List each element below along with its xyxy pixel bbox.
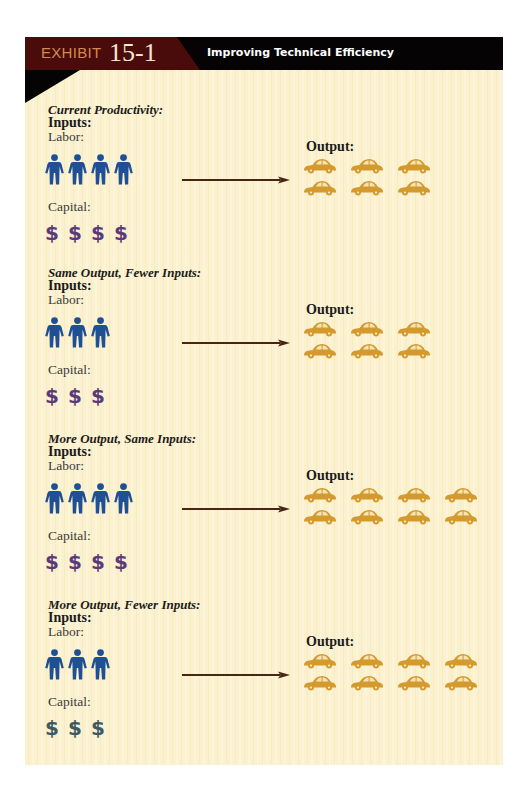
section-current-productivity: Current Productivity: Inputs: Labor: Cap… (25, 102, 503, 262)
output-icons (303, 652, 478, 691)
arrow-right-icon (182, 339, 290, 347)
labor-icons (45, 154, 133, 185)
car-icon (350, 508, 384, 525)
car-icon (397, 674, 431, 691)
person-icon (45, 317, 64, 348)
labor-icons (45, 317, 110, 348)
car-icon (350, 157, 384, 174)
car-icon (303, 508, 337, 525)
output-icons (303, 320, 431, 359)
car-icon (397, 486, 431, 503)
section-same-output-fewer-inputs: Same Output, Fewer Inputs: Inputs: Labor… (25, 265, 503, 425)
car-icon (397, 179, 431, 196)
exhibit-number: 15-1 (109, 38, 157, 68)
arrow-right-icon (182, 505, 290, 513)
dollar-sign-icon: $ (45, 550, 59, 574)
car-icon (303, 157, 337, 174)
car-icon (350, 320, 384, 337)
car-icon (303, 342, 337, 359)
output-label: Output: (306, 634, 354, 650)
dollar-sign-icon: $ (114, 550, 128, 574)
car-icon (444, 652, 478, 669)
capital-label: Capital: (48, 528, 91, 544)
car-icon (350, 486, 384, 503)
capital-icons: $$$$ (45, 221, 128, 245)
person-icon (45, 483, 64, 514)
section-more-output-same-inputs: More Output, Same Inputs: Inputs: Labor:… (25, 431, 503, 591)
arrow-right-icon (182, 176, 290, 184)
person-icon (68, 154, 87, 185)
car-icon (350, 179, 384, 196)
car-icon (303, 179, 337, 196)
car-icon (397, 652, 431, 669)
labor-label: Labor: (48, 624, 84, 640)
car-icon (397, 508, 431, 525)
capital-label: Capital: (48, 362, 91, 378)
person-icon (45, 649, 64, 680)
person-icon (114, 483, 133, 514)
dollar-sign-icon: $ (45, 716, 59, 740)
capital-icons: $$$$ (45, 550, 128, 574)
car-icon (303, 674, 337, 691)
car-icon (397, 342, 431, 359)
dollar-sign-icon: $ (68, 384, 82, 408)
dollar-sign-icon: $ (91, 384, 105, 408)
labor-icons (45, 483, 133, 514)
person-icon (68, 317, 87, 348)
labor-label: Labor: (48, 129, 84, 145)
person-icon (91, 154, 110, 185)
dollar-sign-icon: $ (68, 716, 82, 740)
person-icon (91, 483, 110, 514)
person-icon (114, 154, 133, 185)
dollar-sign-icon: $ (68, 221, 82, 245)
exhibit-page: EXHIBIT 15-1 Improving Technical Efficie… (25, 37, 503, 765)
car-icon (303, 486, 337, 503)
exhibit-label: EXHIBIT (41, 44, 101, 61)
car-icon (303, 652, 337, 669)
car-icon (444, 486, 478, 503)
capital-label: Capital: (48, 199, 91, 215)
car-icon (350, 342, 384, 359)
output-label: Output: (306, 139, 354, 155)
labor-label: Labor: (48, 458, 84, 474)
car-icon (350, 674, 384, 691)
output-label: Output: (306, 468, 354, 484)
output-icons (303, 486, 478, 525)
dollar-sign-icon: $ (45, 221, 59, 245)
car-icon (303, 320, 337, 337)
person-icon (68, 483, 87, 514)
dollar-sign-icon: $ (114, 221, 128, 245)
dollar-sign-icon: $ (91, 716, 105, 740)
output-label: Output: (306, 302, 354, 318)
person-icon (91, 317, 110, 348)
person-icon (91, 649, 110, 680)
header-corner-triangle (25, 70, 80, 103)
car-icon (350, 652, 384, 669)
labor-label: Labor: (48, 292, 84, 308)
dollar-sign-icon: $ (45, 384, 59, 408)
dollar-sign-icon: $ (68, 550, 82, 574)
car-icon (397, 320, 431, 337)
car-icon (397, 157, 431, 174)
arrow-right-icon (182, 671, 290, 679)
section-more-output-fewer-inputs: More Output, Fewer Inputs: Inputs: Labor… (25, 597, 503, 757)
car-icon (444, 674, 478, 691)
capital-icons: $$$ (45, 716, 105, 740)
capital-icons: $$$ (45, 384, 105, 408)
exhibit-title: Improving Technical Efficiency (207, 46, 394, 59)
output-icons (303, 157, 431, 196)
dollar-sign-icon: $ (91, 221, 105, 245)
car-icon (444, 508, 478, 525)
dollar-sign-icon: $ (91, 550, 105, 574)
capital-label: Capital: (48, 694, 91, 710)
person-icon (45, 154, 64, 185)
person-icon (68, 649, 87, 680)
labor-icons (45, 649, 110, 680)
